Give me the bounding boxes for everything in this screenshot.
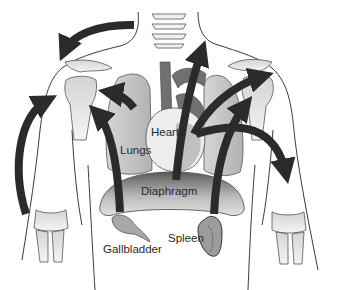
referred-pain-diagram: Heart Lungs Diaphragm Gallbladder Spleen [0, 0, 339, 290]
arrow-left-elbow-to-shoulder [19, 100, 48, 214]
spine-icon [152, 14, 186, 48]
label-heart: Heart [151, 127, 179, 139]
gallbladder [112, 215, 150, 242]
right-elbow-bone [272, 212, 306, 264]
label-diaphragm: Diaphragm [141, 186, 197, 198]
label-spleen: Spleen [168, 233, 204, 245]
arrow-neck-to-left-shoulder [64, 25, 134, 52]
left-elbow-bone [34, 210, 68, 262]
label-lungs: Lungs [120, 145, 151, 157]
label-gallbladder: Gallbladder [103, 244, 162, 256]
